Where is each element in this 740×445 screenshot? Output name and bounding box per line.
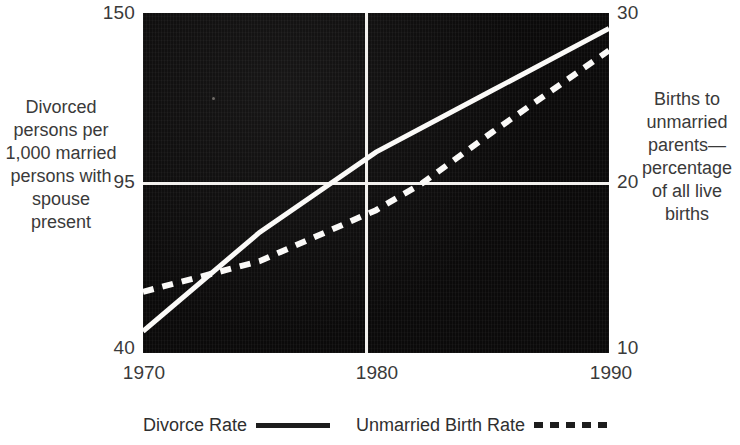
left-axis-tick-95: 95: [60, 171, 135, 193]
left-axis-tick-150: 150: [60, 2, 135, 24]
plot-area: [143, 13, 609, 353]
right-axis-tick-30: 30: [617, 2, 687, 24]
legend-swatch-dashed-line-icon: [534, 422, 612, 428]
right-axis-tick-10: 10: [617, 337, 687, 359]
series-plot: [143, 13, 609, 353]
right-axis-title: Births to unmarried parents—percentage o…: [634, 88, 740, 226]
left-axis-tick-40: 40: [60, 337, 135, 359]
legend-entry-divorce-rate: Divorce Rate: [143, 415, 330, 436]
legend-entry-unmarried-birth-rate: Unmarried Birth Rate: [356, 415, 612, 436]
x-axis-tick-1970: 1970: [99, 362, 189, 384]
legend-swatch-solid-line-icon: [256, 423, 330, 428]
legend-label-unmarried-birth-rate: Unmarried Birth Rate: [356, 415, 525, 436]
chart-figure: Divorced persons per 1,000 married perso…: [0, 0, 740, 445]
left-axis-title: Divorced persons per 1,000 married perso…: [2, 96, 120, 234]
x-axis-tick-1980: 1980: [332, 362, 422, 384]
unmarried-birth-rate-line: [143, 50, 609, 291]
chart-legend: Divorce Rate Unmarried Birth Rate: [143, 410, 663, 440]
right-axis-tick-20: 20: [617, 171, 687, 193]
legend-label-divorce-rate: Divorce Rate: [143, 415, 247, 436]
divorce-rate-line: [143, 28, 609, 331]
x-axis-tick-1990: 1990: [566, 362, 656, 384]
